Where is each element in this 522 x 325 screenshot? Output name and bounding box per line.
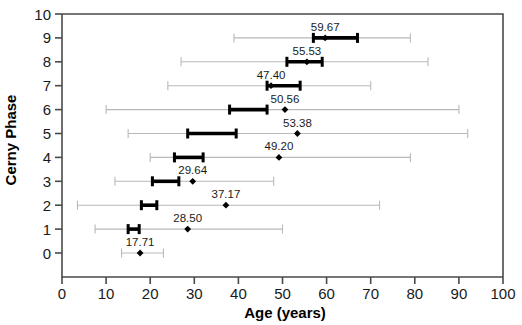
- series-row-phase-8: 55.53: [181, 45, 428, 67]
- x-axis-ticks: 0102030405060708090100: [58, 277, 516, 302]
- series-row-phase-6: 50.56: [106, 93, 459, 115]
- mean-value-label: 28.50: [173, 212, 202, 224]
- x-tick-label-10: 10: [98, 285, 115, 302]
- series-row-phase-1: 28.50: [95, 212, 282, 234]
- mean-value-label: 59.67: [311, 21, 340, 33]
- series-row-phase-7: 47.40: [168, 69, 371, 91]
- y-tick-label-9: 9: [43, 29, 51, 46]
- x-tick-label-30: 30: [186, 285, 203, 302]
- y-tick-label-6: 6: [43, 101, 51, 118]
- mean-marker: [268, 82, 275, 89]
- mean-value-label: 47.40: [257, 69, 286, 81]
- y-axis-ticks: 012345678910: [34, 6, 62, 262]
- mean-marker: [282, 106, 289, 113]
- mean-value-label: 55.53: [292, 45, 321, 57]
- series-layer: 59.6755.5347.4050.5653.3849.2029.6437.17…: [77, 21, 467, 258]
- mean-marker: [276, 154, 283, 161]
- mean-marker: [137, 250, 144, 257]
- series-row-phase-5: 53.38: [128, 117, 468, 139]
- mean-value-label: 17.71: [126, 236, 155, 248]
- y-tick-label-5: 5: [43, 125, 51, 142]
- x-tick-label-50: 50: [274, 285, 291, 302]
- series-row-phase-3: 29.64: [115, 164, 274, 186]
- x-axis-title: Age (years): [244, 304, 326, 321]
- y-tick-label-4: 4: [43, 149, 51, 166]
- series-row-phase-0: 17.71: [122, 236, 164, 258]
- x-tick-label-80: 80: [406, 285, 423, 302]
- y-axis-title: Cerny Phase: [2, 95, 19, 186]
- mean-marker: [322, 35, 329, 42]
- mean-value-label: 29.64: [178, 164, 207, 176]
- y-tick-label-8: 8: [43, 53, 51, 70]
- y-tick-label-7: 7: [43, 77, 51, 94]
- mean-value-label: 49.20: [265, 140, 294, 152]
- mean-marker: [184, 226, 191, 233]
- x-tick-label-60: 60: [318, 285, 335, 302]
- x-tick-label-90: 90: [451, 285, 468, 302]
- mean-marker: [189, 178, 196, 185]
- series-row-phase-4: 49.20: [150, 140, 410, 162]
- chart-container: 012345678910 0102030405060708090100 59.6…: [0, 0, 522, 325]
- mean-value-label: 50.56: [271, 93, 300, 105]
- mean-marker: [223, 202, 230, 209]
- mean-marker: [303, 58, 310, 65]
- x-tick-label-0: 0: [58, 285, 66, 302]
- series-row-phase-2: 37.17: [77, 188, 379, 210]
- x-tick-label-20: 20: [142, 285, 159, 302]
- x-tick-label-40: 40: [230, 285, 247, 302]
- mean-value-label: 37.17: [212, 188, 241, 200]
- series-row-phase-9: 59.67: [234, 21, 410, 43]
- mean-value-label: 53.38: [283, 117, 312, 129]
- y-tick-label-2: 2: [43, 197, 51, 214]
- y-tick-label-0: 0: [43, 245, 51, 262]
- y-tick-label-3: 3: [43, 173, 51, 190]
- mean-marker: [294, 130, 301, 137]
- x-tick-label-100: 100: [490, 285, 515, 302]
- y-tick-label-10: 10: [34, 6, 51, 23]
- x-tick-label-70: 70: [362, 285, 379, 302]
- cerny-phase-age-chart: 012345678910 0102030405060708090100 59.6…: [0, 0, 522, 325]
- y-tick-label-1: 1: [43, 221, 51, 238]
